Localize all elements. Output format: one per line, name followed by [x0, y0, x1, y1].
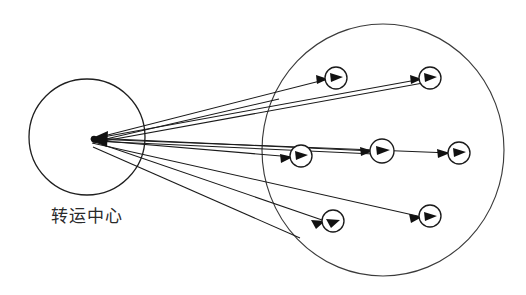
- node-5[interactable]: [448, 142, 470, 164]
- routing-diagram-svg: 转运中心: [0, 0, 526, 295]
- node-2[interactable]: [419, 67, 441, 89]
- hub-convergence-dot: [91, 136, 97, 142]
- node-6[interactable]: [322, 210, 344, 232]
- route-to-node-1[interactable]: [92, 75, 328, 142]
- route-line-2b: [93, 83, 423, 143]
- transfer-center-label: 转运中心: [51, 206, 123, 226]
- route-line-5a: [92, 139, 450, 153]
- node-4[interactable]: [370, 139, 394, 163]
- route-to-node-2[interactable]: [92, 75, 423, 143]
- diagram-canvas: 转运中心: [0, 0, 526, 295]
- node-3[interactable]: [290, 145, 312, 167]
- route-line-1a: [92, 79, 328, 139]
- node-7[interactable]: [419, 205, 441, 227]
- node-1[interactable]: [325, 67, 347, 89]
- route-line-2a: [92, 79, 422, 139]
- route-line-1b: [93, 99, 279, 142]
